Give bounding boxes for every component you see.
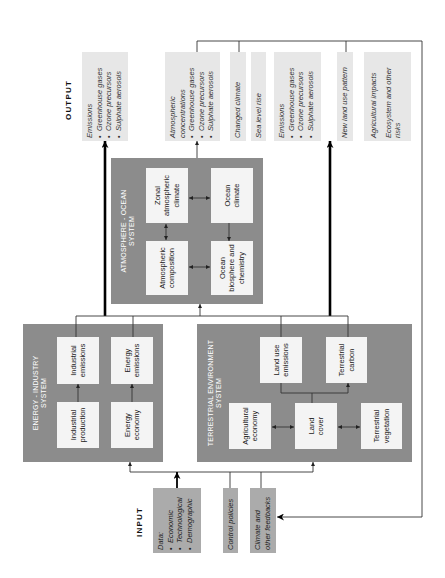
label-line: Terrestrial: [372, 410, 382, 443]
label-line: Terrestrial: [337, 344, 347, 377]
input-line: Climate and: [253, 491, 263, 550]
zonal-atmospheric-climate-box: Zonal atmospheric climate: [146, 168, 188, 223]
output-bullet: Sulphate aerosols: [306, 55, 316, 138]
label-line: Ocean: [218, 257, 228, 279]
label-line: Energy: [123, 349, 133, 373]
system-title: ATMOSPHERE - OCEAN SYSTEM: [120, 158, 136, 304]
label-line: Zonal: [153, 186, 163, 205]
output-land-emissions: Emissions Greenhouse gases Ozone precurs…: [274, 52, 321, 141]
input-heading: Data:: [156, 491, 166, 550]
label-line: biosphere and: [227, 244, 237, 292]
output-heading: Emissions: [85, 55, 95, 138]
input-bullet: Economic: [166, 491, 176, 550]
output-bullet: Sulphate aerosols: [114, 55, 124, 138]
input-bullet: Demographic: [185, 491, 195, 550]
output-bullet: Greenhouse gases: [95, 55, 105, 138]
title-line: ENERGY - INDUSTRY: [32, 324, 40, 462]
atmosphere-ocean-system: ATMOSPHERE - OCEAN SYSTEM Zonal atmosphe…: [111, 158, 263, 304]
label-line: production: [78, 407, 88, 442]
ocean-biosphere-chemistry-box: Ocean biosphere and chemistry: [211, 241, 253, 295]
output-bullet: Sulphate aerosols: [206, 55, 216, 138]
rotated-diagram: OUTPUT Emissions Greenhouse gases Ozone …: [0, 0, 445, 578]
label-line: Land use: [272, 345, 282, 376]
input-climate-feedbacks-box: Climate and other feedbacks: [250, 488, 276, 553]
output-heading: Atmospheric: [168, 55, 178, 138]
terrestrial-vegetation-box: Terrestrial vegetation: [361, 403, 402, 449]
label-line: emissions: [132, 344, 142, 377]
input-control-policies-box: Control policies: [223, 488, 238, 553]
output-new-land-use-pattern: New land use pattern: [337, 52, 353, 141]
terrestrial-carbon-box: Terrestrial carbon: [326, 337, 367, 383]
title-line: SYSTEM: [215, 324, 223, 462]
label-line: Industrial: [69, 345, 79, 375]
label-line: vegetation: [382, 409, 392, 444]
output-paragraph: Ecosystem and other: [384, 55, 394, 138]
label-line: climate: [232, 184, 242, 208]
label-line: Land: [307, 418, 317, 435]
output-sea-level-rise: Sea level rise: [251, 52, 266, 141]
title-line: SYSTEM: [40, 324, 48, 462]
energy-emissions-box: Energy emissions: [111, 337, 153, 384]
output-energy-emissions: Emissions Greenhouse gases Ozone precurs…: [82, 52, 128, 141]
system-title: ENERGY - INDUSTRY SYSTEM: [32, 324, 48, 462]
title-line: SYSTEM: [128, 158, 136, 304]
label-line: carbon: [347, 349, 357, 372]
energy-economy-box: Energy economy: [111, 402, 153, 448]
label-line: Agricultural: [241, 407, 251, 445]
output-heading: New land use pattern: [340, 55, 350, 138]
label-line: Ocean: [223, 184, 233, 206]
input-line: other feedbacks: [263, 491, 273, 550]
atmospheric-composition-box: Atmospheric composition: [146, 241, 188, 295]
land-cover-box: Land cover: [295, 403, 337, 449]
label-line: emissions: [78, 344, 88, 377]
output-heading: Sea level rise: [254, 55, 264, 138]
title-line: ATMOSPHERE - OCEAN: [120, 158, 128, 304]
terrestrial-environment-system: TERRESTRIAL ENVIRONMENT SYSTEM Land use …: [197, 324, 412, 462]
output-heading: Emissions: [277, 55, 287, 138]
ocean-climate-box: Ocean climate: [211, 168, 253, 223]
label-line: economy: [250, 411, 260, 441]
output-bullet: Ozone precursors: [296, 55, 306, 138]
system-title: TERRESTRIAL ENVIRONMENT SYSTEM: [207, 324, 223, 462]
label-line: Atmospheric: [158, 247, 168, 289]
input-label: INPUT: [135, 503, 145, 541]
energy-industry-system: ENERGY - INDUSTRY SYSTEM Industrial emis…: [23, 324, 163, 462]
label-line: chemistry: [237, 252, 247, 284]
label-line: climate: [172, 184, 182, 208]
output-label: OUTPUT: [64, 78, 74, 122]
label-line: emissions: [281, 343, 291, 376]
output-bullet: Ozone precursors: [197, 55, 207, 138]
label-line: cover: [316, 417, 326, 435]
output-changed-climate: Changed climate: [230, 52, 246, 141]
output-bullet: Greenhouse gases: [187, 55, 197, 138]
input-data-box: Data: Economic Technological Demographic: [153, 488, 201, 553]
output-bullet: Ozone precursors: [104, 55, 114, 138]
output-heading: Changed climate: [233, 55, 243, 138]
label-line: atmospheric: [162, 175, 172, 216]
input-line: Control policies: [226, 491, 236, 550]
land-use-emissions-box: Land use emissions: [260, 337, 302, 383]
label-line: Energy: [123, 413, 133, 437]
output-heading: concentrations: [178, 55, 188, 138]
output-paragraph: risks: [393, 55, 403, 138]
label-line: composition: [167, 248, 177, 288]
output-atmospheric-concentrations: Atmospheric concentrations Greenhouse ga…: [165, 52, 220, 141]
industrial-production-box: Industrial production: [57, 402, 99, 448]
output-bullet: Greenhouse gases: [287, 55, 297, 138]
industrial-emissions-box: Industrial emissions: [57, 337, 99, 384]
label-line: economy: [132, 410, 142, 440]
label-line: Industrial: [69, 410, 79, 440]
title-line: TERRESTRIAL ENVIRONMENT: [207, 324, 215, 462]
agricultural-economy-box: Agricultural economy: [229, 403, 271, 449]
output-paragraph: Agricultural impacts: [369, 55, 379, 138]
input-bullet: Technological: [175, 491, 185, 550]
output-impacts: Agricultural impacts Ecosystem and other…: [364, 52, 411, 141]
